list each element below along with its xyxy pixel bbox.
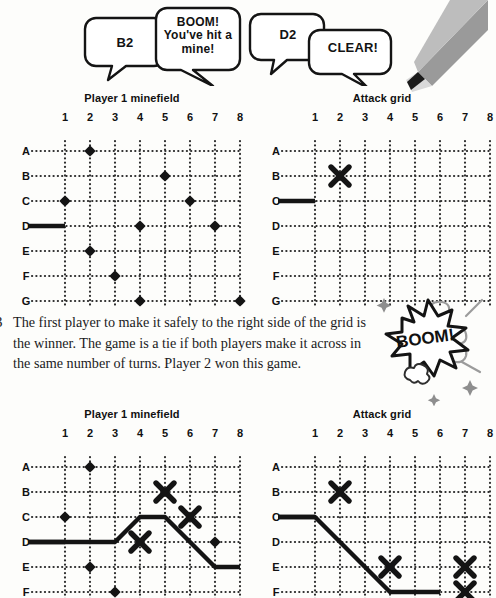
mine-marker [234, 295, 245, 306]
grid-block-attackgrid-top: Attack grid12345678ABCDEFG [268, 92, 496, 307]
hit-marker-x-icon [156, 483, 174, 501]
bubble-text-boom: BOOM! You've hit a mine! [160, 16, 236, 56]
mine-marker [84, 245, 95, 256]
grid-row-label: E [22, 561, 29, 573]
grid-column-label: 6 [437, 111, 443, 123]
grid-column-label: 4 [387, 111, 394, 123]
grid-row-label: E [272, 245, 279, 257]
mine-marker [84, 561, 95, 572]
grid-row-label: D [272, 220, 280, 232]
mine-marker [184, 195, 195, 206]
mine-marker [59, 511, 70, 522]
grid-row-label: D [272, 536, 280, 548]
grid-column-label: 8 [237, 111, 243, 123]
grid-row-label: F [23, 270, 30, 282]
grid-row-label: C [22, 195, 30, 207]
grid-column-label: 6 [187, 111, 193, 123]
grid-svg: 12345678ABCDEF [268, 424, 496, 598]
grid-block-minefield-bottom: Player 1 minefield12345678ABCDEF [18, 408, 246, 598]
grid-column-label: 4 [137, 111, 144, 123]
grid-svg: 12345678ABCDEFG [268, 108, 496, 307]
mine-marker [109, 586, 120, 597]
grid-row-label: E [22, 245, 29, 257]
grid-row-label: A [272, 461, 280, 473]
mine-marker [134, 220, 145, 231]
instruction-bullet: 3 [0, 312, 7, 374]
grid-row-label: A [272, 145, 280, 157]
grid-row-label: F [273, 270, 280, 282]
grid-column-label: 2 [87, 111, 93, 123]
grid-title: Player 1 minefield [18, 408, 246, 420]
grid-column-label: 6 [187, 427, 193, 439]
grid-column-label: 5 [162, 111, 168, 123]
grid-column-label: 1 [62, 111, 68, 123]
boom-badge: BOOM! [362, 288, 488, 406]
grid-title: Attack grid [268, 92, 496, 104]
grid-column-label: 1 [62, 427, 68, 439]
player-path-line [278, 517, 440, 592]
mine-marker [84, 461, 95, 472]
grid-column-label: 2 [337, 427, 343, 439]
mine-marker [159, 170, 170, 181]
mine-marker [209, 536, 220, 547]
grid-column-label: 7 [462, 111, 468, 123]
grid-column-label: 5 [412, 111, 418, 123]
grid-column-label: 4 [137, 427, 144, 439]
smoke-puff-icon [405, 364, 430, 384]
grid-block-attackgrid-bottom: Attack grid12345678ABCDEF [268, 408, 496, 598]
grid-row-label: C [22, 511, 30, 523]
bubble-shape-clear [309, 30, 391, 86]
grid-row-label: A [22, 461, 30, 473]
grid-column-label: 5 [162, 427, 168, 439]
instruction-text: The first player to make it safely to th… [13, 312, 375, 374]
grid-row-label: B [272, 486, 280, 498]
grid-svg: 12345678ABCDEFG [18, 108, 246, 307]
grid-row-label: A [22, 145, 30, 157]
grid-svg: 12345678ABCDEF [18, 424, 246, 598]
grid-row-label: B [22, 486, 30, 498]
bubble-text-b2: B2 [96, 36, 154, 51]
grid-column-label: 1 [312, 427, 318, 439]
grid-column-label: 3 [362, 427, 368, 439]
grid-block-minefield-top: Player 1 minefield12345678ABCDEFG [18, 92, 246, 307]
grid-column-label: 2 [337, 111, 343, 123]
grid-row-label: F [23, 586, 30, 598]
grid-title: Attack grid [268, 408, 496, 420]
grid-column-label: 3 [112, 427, 118, 439]
pencil-tip-icon [398, 0, 488, 92]
grid-column-label: 2 [87, 427, 93, 439]
grid-row-label: B [22, 170, 30, 182]
grid-column-label: 1 [312, 111, 318, 123]
grid-column-label: 6 [437, 427, 443, 439]
mine-marker [59, 195, 70, 206]
grid-column-label: 3 [362, 111, 368, 123]
grid-column-label: 7 [212, 427, 218, 439]
boom-badge-svg: BOOM! [362, 288, 488, 406]
grid-row-label: B [272, 170, 280, 182]
grid-row-label: E [272, 561, 279, 573]
mine-marker [134, 295, 145, 306]
grid-row-label: G [272, 295, 281, 307]
grid-column-label: 8 [487, 427, 493, 439]
grid-column-label: 5 [412, 427, 418, 439]
grid-column-label: 7 [462, 427, 468, 439]
mine-marker [209, 220, 220, 231]
grid-row-label: F [273, 586, 280, 598]
grid-column-label: 7 [212, 111, 218, 123]
grid-column-label: 4 [387, 427, 394, 439]
instruction-block: 3 The first player to make it safely to … [0, 312, 375, 374]
bubble-text-clear: CLEAR! [318, 41, 388, 56]
mine-marker [109, 270, 120, 281]
mine-marker [84, 145, 95, 156]
bubble-text-d2: D2 [262, 28, 314, 43]
grid-column-label: 8 [487, 111, 493, 123]
grid-column-label: 8 [237, 427, 243, 439]
grid-column-label: 3 [112, 111, 118, 123]
grid-row-label: G [22, 295, 31, 307]
grid-title: Player 1 minefield [18, 92, 246, 104]
